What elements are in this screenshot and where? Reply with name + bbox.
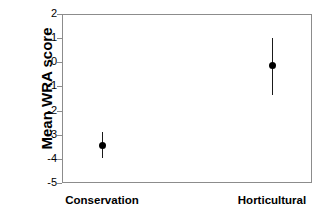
y-tick-label: 2: [35, 8, 57, 19]
y-tick-label: 1: [35, 32, 57, 43]
y-tick-label: -1: [35, 80, 57, 91]
y-tick-label: 0: [35, 56, 57, 67]
y-axis-tick-labels: 210-1-2-3-4-5: [33, 0, 57, 223]
chart-container: Mean WRA score 210-1-2-3-4-5 Conservatio…: [0, 0, 325, 223]
y-tick-label: -4: [35, 153, 57, 164]
x-axis-label-horticultural: Horticultural: [212, 194, 325, 206]
y-tick-mark: [57, 183, 62, 184]
y-tick-label: -3: [35, 129, 57, 140]
y-tick-label: -2: [35, 105, 57, 116]
plot-area: [62, 14, 312, 183]
x-axis-label-conservation: Conservation: [42, 194, 162, 206]
y-tick-label: -5: [35, 177, 57, 188]
